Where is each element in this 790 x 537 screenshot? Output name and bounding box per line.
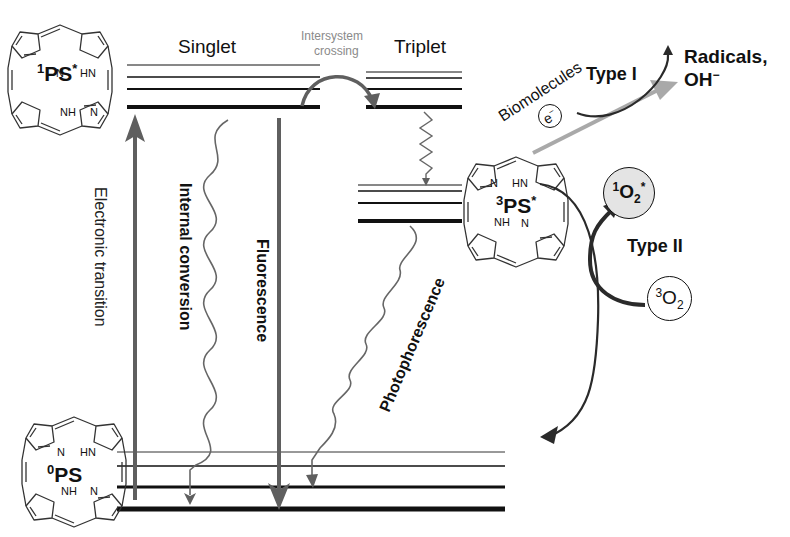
- atom-nh: NH: [60, 107, 76, 118]
- type-i-label: Type I: [586, 65, 637, 83]
- singlet-levels: [127, 65, 320, 107]
- triplet-relaxation-zigzag: [420, 112, 432, 186]
- atom-nh: NH: [494, 217, 510, 228]
- atom-hn: HN: [80, 447, 96, 458]
- intersystem-crossing-label-2: crossing: [314, 45, 359, 57]
- ground-ps-label: 0PS: [47, 463, 82, 485]
- electron-circle: e−: [538, 104, 562, 128]
- radicals-label-line1: Radicals,: [684, 47, 767, 66]
- type-ii-label: Type II: [627, 237, 683, 255]
- internal-conversion-label: Internal conversion: [177, 183, 193, 331]
- singlet-oxygen-circle: 1O2*: [603, 167, 655, 219]
- atom-n: N: [521, 218, 529, 229]
- electronic-transition-label: Electronic transition: [92, 187, 108, 327]
- intersystem-crossing-arrow: [302, 77, 380, 109]
- triplet-label: Triplet: [394, 37, 446, 56]
- atom-n: N: [56, 68, 64, 79]
- triplet-excited-ps-label: 3PS*: [496, 194, 536, 216]
- type-ii-return-arrow: [540, 184, 598, 444]
- atom-nh: NH: [61, 486, 77, 497]
- intersystem-crossing-label-1: Intersystem: [301, 30, 363, 42]
- atom-n: N: [490, 178, 498, 189]
- atom-hn: HN: [80, 68, 96, 79]
- jablonski-diagram: Singlet Intersystem crossing Triplet 1PS…: [0, 0, 790, 537]
- triplet-lower-levels: [358, 185, 462, 221]
- fluorescence-arrow: [268, 118, 290, 510]
- diagram-graphics: [0, 0, 790, 537]
- triplet-levels: [366, 72, 462, 107]
- singlet-label: Singlet: [178, 37, 236, 56]
- atom-hn: HN: [512, 178, 528, 189]
- triplet-oxygen-circle: 3O2: [647, 276, 692, 321]
- atom-n: N: [90, 486, 98, 497]
- atom-n: N: [90, 107, 98, 118]
- fluorescence-label: Fluorescence: [254, 239, 270, 342]
- electronic-transition-arrow: [125, 114, 145, 500]
- atom-n: N: [57, 447, 65, 458]
- radicals-label-line2: OH−: [684, 69, 720, 89]
